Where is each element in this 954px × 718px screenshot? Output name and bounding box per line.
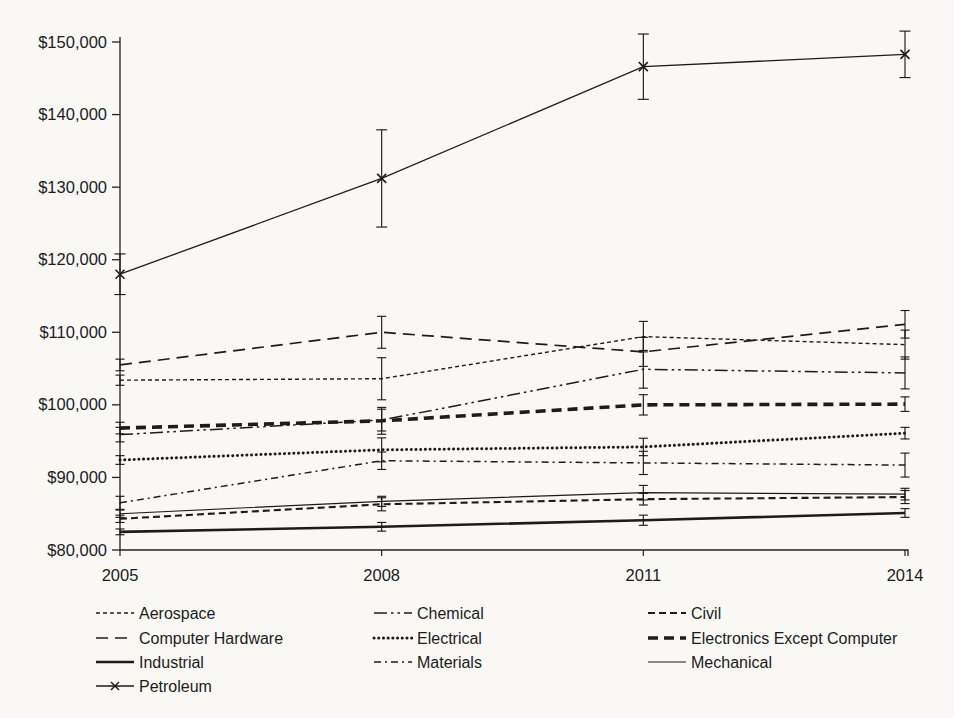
- errorbars-petroleum: [115, 31, 911, 294]
- series-line-industrial: [120, 513, 905, 532]
- scanned-salary-chart-page: $80,000$90,000$100,000$110,000$120,000$1…: [0, 0, 954, 718]
- legend-label-computer-hardware: Computer Hardware: [139, 630, 283, 647]
- y-tick-label: $90,000: [47, 468, 107, 486]
- x-tick-label: 2005: [102, 566, 139, 584]
- legend-item-mechanical: Mechanical: [648, 654, 772, 671]
- y-tick-label: $80,000: [47, 541, 107, 559]
- legend-label-electrical: Electrical: [417, 630, 482, 647]
- legend-item-electronics-except-computer: Electronics Except Computer: [648, 630, 898, 647]
- series-line-mechanical: [120, 493, 905, 514]
- y-tick-label: $100,000: [38, 395, 107, 413]
- series-line-electrical: [120, 433, 905, 460]
- y-axis-ticks: $80,000$90,000$100,000$110,000$120,000$1…: [38, 33, 120, 559]
- x-tick-label: 2014: [887, 566, 924, 584]
- legend-item-aerospace: Aerospace: [96, 605, 216, 622]
- series-line-aerospace: [120, 337, 905, 381]
- x-axis-ticks: 2005200820112014: [102, 550, 924, 584]
- legend-item-materials: Materials: [374, 654, 482, 671]
- legend-item-computer-hardware: Computer Hardware: [96, 630, 283, 647]
- y-tick-label: $110,000: [39, 323, 107, 341]
- legend-item-industrial: Industrial: [96, 654, 204, 671]
- series-line-electronics-except-computer: [120, 404, 905, 428]
- legend-item-electrical: Electrical: [374, 630, 482, 647]
- series-line-petroleum: [116, 50, 910, 279]
- legend-item-civil: Civil: [648, 605, 721, 622]
- legend-label-civil: Civil: [691, 605, 721, 622]
- errorbars-materials: [116, 451, 910, 509]
- errorbars-civil: [116, 490, 910, 522]
- legend-label-aerospace: Aerospace: [139, 605, 216, 622]
- legend-label-materials: Materials: [417, 654, 482, 671]
- legend: AerospaceComputer HardwareIndustrialPetr…: [96, 605, 898, 695]
- y-tick-label: $140,000: [38, 105, 107, 123]
- legend-label-mechanical: Mechanical: [691, 654, 772, 671]
- y-tick-label: $120,000: [38, 250, 107, 268]
- x-tick-label: 2008: [363, 566, 400, 584]
- legend-label-industrial: Industrial: [139, 654, 204, 671]
- errorbars-aerospace: [116, 321, 910, 399]
- legend-label-petroleum: Petroleum: [139, 678, 212, 695]
- legend-label-chemical: Chemical: [417, 605, 484, 622]
- series-line-computer-hardware: [120, 324, 905, 365]
- x-tick-label: 2011: [626, 566, 661, 584]
- legend-item-petroleum: Petroleum: [96, 678, 212, 695]
- legend-item-chemical: Chemical: [374, 605, 484, 622]
- engineering-salary-line-chart: $80,000$90,000$100,000$110,000$120,000$1…: [0, 0, 954, 718]
- errorbars-electrical: [116, 427, 910, 464]
- y-tick-label: $130,000: [38, 178, 107, 196]
- axes: [120, 37, 908, 556]
- y-tick-label: $150,000: [38, 33, 107, 51]
- legend-label-electronics-except-computer: Electronics Except Computer: [691, 630, 898, 647]
